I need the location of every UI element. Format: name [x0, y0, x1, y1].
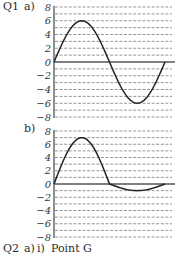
- question-2-label: Q2: [3, 243, 19, 255]
- y-tick-label: −2: [36, 70, 51, 81]
- y-tick-label: −6: [36, 218, 51, 229]
- y-tick-label: −8: [36, 112, 51, 123]
- y-tick-label: −2: [36, 192, 51, 203]
- y-tick-label: 4: [44, 29, 51, 40]
- q2-answer-text: Point G: [51, 243, 92, 255]
- y-tick-label: 0: [45, 179, 52, 190]
- y-tick-label: −8: [36, 232, 51, 243]
- y-tick-label: 2: [44, 43, 51, 54]
- y-tick-label: −4: [36, 84, 51, 95]
- y-tick-label: −6: [36, 98, 51, 109]
- q2-part-a-label: a): [24, 243, 35, 255]
- y-tick-label: −4: [36, 205, 51, 216]
- y-tick-label: 8: [45, 126, 51, 137]
- chart-a: 86420−2−4−6−886420−2−4−6−8: [0, 0, 184, 258]
- y-tick-label: 2: [44, 165, 51, 176]
- y-tick-label: 8: [45, 2, 51, 13]
- y-tick-label: 6: [45, 139, 52, 150]
- y-tick-label: 6: [45, 15, 52, 26]
- y-tick-label: 0: [45, 57, 52, 68]
- q2-subpart-i-label: i): [37, 243, 45, 255]
- y-tick-label: 4: [44, 152, 51, 163]
